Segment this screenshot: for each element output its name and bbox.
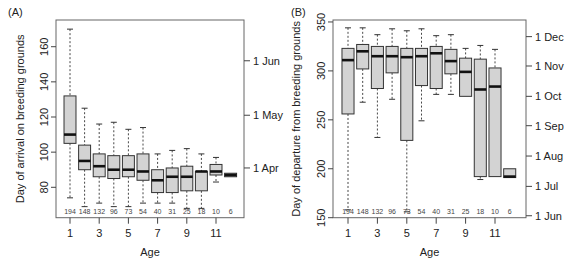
y-tick-label: 80 <box>38 181 50 193</box>
sample-size-label: 96 <box>110 208 118 215</box>
box-age-7: 40 <box>152 154 164 215</box>
y-tick-label: 200 <box>315 160 327 178</box>
right-axis-label: 1 Apr <box>253 162 279 174</box>
y-tick-label: 120 <box>38 108 50 126</box>
box-age-8: 31 <box>166 150 178 214</box>
iqr-box <box>122 156 134 177</box>
sample-size-label: 10 <box>212 208 220 215</box>
sample-size-label: 54 <box>418 208 426 215</box>
sample-size-label: 132 <box>372 208 384 215</box>
iqr-box <box>108 156 120 179</box>
box-age-5: 73 <box>401 31 413 215</box>
sample-size-label: 194 <box>64 208 76 215</box>
y-axis-label: Day of departure from breeding grounds <box>290 21 302 217</box>
box-age-8: 31 <box>445 35 457 215</box>
sample-size-label: 40 <box>154 208 162 215</box>
sample-size-label: 73 <box>125 208 133 215</box>
iqr-box <box>64 96 76 143</box>
box-age-11: 10 <box>489 49 501 214</box>
right-axis-label: 1 May <box>253 109 283 121</box>
sample-size-label: 6 <box>229 208 233 215</box>
x-tick-label: 11 <box>489 227 500 239</box>
x-tick-label: 5 <box>125 227 131 239</box>
right-axis-label: 1 Aug <box>535 150 563 162</box>
box-age-9: 25 <box>181 149 193 215</box>
x-tick-label: 9 <box>184 227 190 239</box>
iqr-box <box>460 58 472 96</box>
sample-size-label: 148 <box>79 208 91 215</box>
iqr-box <box>401 48 413 140</box>
box-age-5: 73 <box>122 129 134 214</box>
x-axis-label: Age <box>420 246 440 258</box>
sample-size-label: 18 <box>198 208 206 215</box>
y-tick-label: 150 <box>315 209 327 227</box>
box-age-3: 132 <box>93 124 105 215</box>
y-axis-label: Day of arrival on breeding grounds <box>14 34 26 203</box>
box-age-3: 132 <box>371 35 383 215</box>
iqr-box <box>474 59 486 176</box>
iqr-box <box>371 46 383 88</box>
iqr-box <box>489 68 501 177</box>
panel-label: (A) <box>8 6 23 18</box>
y-tick-label: 350 <box>315 13 327 31</box>
right-axis-label: 1 Jul <box>535 180 558 192</box>
iqr-box <box>386 46 398 72</box>
panel-a: (A)80100120140160Day of arrival on breed… <box>8 6 283 258</box>
panel-b: (B)150200250300350Day of departure from … <box>290 6 564 258</box>
x-tick-label: 1 <box>345 227 351 239</box>
right-axis-label: 1 Jun <box>253 55 280 67</box>
iqr-box <box>195 171 207 190</box>
x-tick-label: 9 <box>463 227 469 239</box>
iqr-box <box>79 145 91 170</box>
sample-size-label: 40 <box>432 208 440 215</box>
right-axis-label: 1 Nov <box>535 60 564 72</box>
box-age-9: 25 <box>460 48 472 214</box>
box-age-4: 96 <box>386 29 398 215</box>
box-plot-figure: (A)80100120140160Day of arrival on breed… <box>0 0 571 261</box>
iqr-box <box>357 44 369 68</box>
sample-size-label: 25 <box>183 208 191 215</box>
plot-frame <box>56 20 244 218</box>
right-axis-label: 1 Dec <box>535 31 564 43</box>
box-age-7: 40 <box>430 36 442 215</box>
box-age-11: 10 <box>210 157 222 214</box>
x-tick-label: 7 <box>155 227 161 239</box>
right-axis-label: 1 Sep <box>535 120 564 132</box>
x-tick-label: 11 <box>210 227 221 239</box>
sample-size-label: 132 <box>93 208 105 215</box>
box-age-6: 54 <box>415 29 427 215</box>
y-tick-label: 300 <box>315 62 327 80</box>
x-tick-label: 3 <box>96 227 102 239</box>
iqr-box <box>181 166 193 191</box>
x-tick-label: 7 <box>433 227 439 239</box>
x-axis-label: Age <box>140 246 160 258</box>
box-age-10: 18 <box>474 45 486 214</box>
sample-size-label: 10 <box>491 208 499 215</box>
iqr-box <box>166 168 178 193</box>
x-tick-label: 3 <box>374 227 380 239</box>
sample-size-label: 54 <box>139 208 147 215</box>
y-tick-label: 160 <box>38 38 50 56</box>
sample-size-label: 96 <box>388 208 396 215</box>
box-age-12: 6 <box>504 169 516 215</box>
y-tick-label: 100 <box>38 143 50 161</box>
sample-size-label: 18 <box>476 208 484 215</box>
sample-size-label: 6 <box>508 208 512 215</box>
sample-size-label: 73 <box>403 208 411 215</box>
iqr-box <box>210 164 222 175</box>
box-age-4: 96 <box>108 122 120 214</box>
box-age-1: 194 <box>342 28 354 215</box>
box-age-2: 148 <box>357 28 369 215</box>
iqr-box <box>137 154 149 180</box>
sample-size-label: 194 <box>342 208 354 215</box>
x-tick-label: 1 <box>67 227 73 239</box>
panel-label: (B) <box>291 6 306 18</box>
y-tick-label: 140 <box>38 73 50 91</box>
x-tick-label: 5 <box>404 227 410 239</box>
y-tick-label: 250 <box>315 111 327 129</box>
box-age-10: 18 <box>195 154 207 215</box>
box-age-2: 148 <box>79 108 91 214</box>
right-axis-label: 1 Oct <box>535 90 561 102</box>
box-age-1: 194 <box>64 29 76 215</box>
sample-size-label: 31 <box>447 208 455 215</box>
